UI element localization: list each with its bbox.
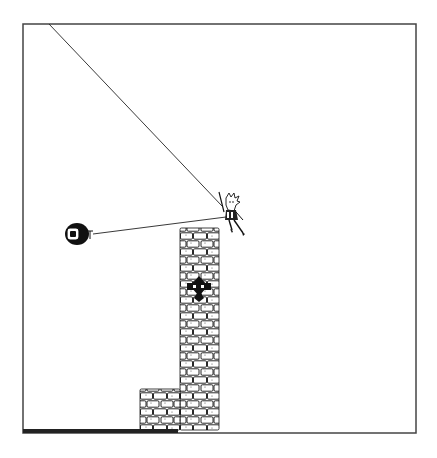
brick-tower xyxy=(180,228,219,430)
brick-block xyxy=(140,389,180,430)
ground-bar xyxy=(23,429,178,433)
game-canvas[interactable] xyxy=(0,0,437,458)
